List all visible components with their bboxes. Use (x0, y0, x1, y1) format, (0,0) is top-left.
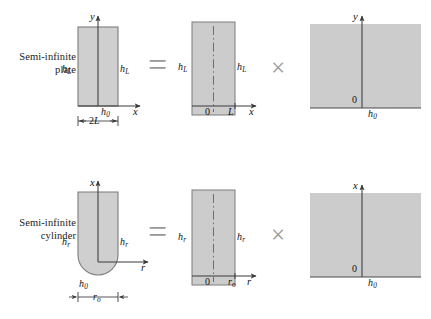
row-label-cylinder-line1: Semi-infinite (2, 216, 76, 229)
rod-r-axis-label: r (247, 277, 251, 288)
row-label-plate-line1: Semi-infinite (2, 50, 76, 63)
rod-hr-left-subscript: r (183, 235, 186, 244)
rod-origin-label: 0 (205, 277, 210, 287)
cylinder-hr-right-subscript: r (125, 240, 128, 249)
slab-origin-label: 0 (205, 107, 210, 117)
cylinder-hr-left-label: hr (62, 237, 70, 247)
rod-hr-right-label: hr (237, 232, 245, 242)
operator-times-cylinder: × (271, 222, 285, 247)
plate-dimension-letter: L (94, 115, 100, 126)
rod-body-shape (192, 190, 235, 285)
plate-h0-label: h0 (101, 107, 110, 117)
cylinder-x-axis-label: x (90, 178, 95, 189)
halfspace-body-shape (310, 24, 421, 108)
halfspace2-body-shape (310, 193, 421, 277)
plate-hL-left-subscript: L (67, 67, 71, 76)
plate-hL-right-label: hL (120, 64, 129, 74)
rod-hr-left-label: hr (178, 232, 186, 242)
halfspace-h0-label: h0 (368, 109, 377, 119)
halfspace2-h0-label: h0 (368, 278, 377, 288)
panel-cylinder-halfspace (310, 185, 421, 277)
cylinder-r-axis-label: r (141, 263, 145, 274)
plate-dimension-label: 2L (89, 116, 100, 126)
slab-hL-left-subscript: L (183, 65, 187, 74)
halfspace-origin-label: 0 (352, 95, 357, 105)
figure-canvas (0, 0, 431, 319)
slab-x-axis-label: x (249, 107, 254, 118)
slab-tick-label: L (228, 107, 234, 117)
operator-equals-cylinder: = (148, 215, 167, 249)
halfspace2-x-axis-label: x (353, 181, 358, 192)
halfspace2-origin-label: 0 (352, 264, 357, 274)
panel-plate-slab (192, 22, 256, 115)
cylinder-hr-left-subscript: r (67, 240, 70, 249)
cylinder-dimension-label: ro (93, 292, 101, 302)
halfspace-h0-subscript: 0 (373, 112, 377, 121)
plate-x-axis-label: x (133, 107, 138, 118)
plate-hL-left-label: hL (62, 64, 71, 74)
figure-root: Semi-infinite plate Semi-infinite cylind… (0, 0, 431, 319)
rod-tick-label: ro (228, 277, 236, 287)
slab-hL-left-label: hL (178, 62, 187, 72)
halfspace-y-axis-label: y (353, 12, 358, 23)
slab-hL-right-label: hL (237, 62, 246, 72)
cylinder-h0-label: h0 (79, 279, 88, 289)
cylinder-hr-right-label: hr (120, 237, 128, 247)
cylinder-dimension-subscript: o (97, 295, 101, 304)
halfspace2-h0-subscript: 0 (373, 281, 377, 290)
operator-equals-plate: = (148, 48, 167, 82)
panel-plate-halfspace (310, 16, 421, 108)
rod-hr-right-subscript: r (242, 235, 245, 244)
operator-times-plate: × (271, 55, 285, 80)
slab-hL-right-subscript: L (242, 65, 246, 74)
plate-h0-subscript: 0 (106, 110, 110, 119)
rod-tick-subscript: o (232, 280, 236, 289)
plate-y-axis-label: y (90, 12, 95, 23)
plate-hL-right-subscript: L (125, 67, 129, 76)
panel-cylinder-rod (192, 190, 256, 285)
cylinder-h0-subscript: 0 (84, 282, 88, 291)
